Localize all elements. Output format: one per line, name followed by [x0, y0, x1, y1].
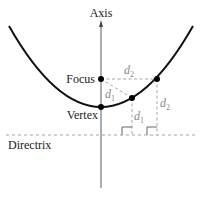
- vertex-label: Vertex: [67, 108, 98, 122]
- vertex-point: [98, 104, 104, 110]
- curve-point-p2: [154, 76, 160, 82]
- d1-vertical-label: d1: [134, 109, 144, 125]
- diagram-canvas: Axis Focus Vertex Directrix d2 d1 d1 d2: [0, 0, 200, 197]
- d2-vertical-label: d2: [160, 96, 170, 112]
- focus-label: Focus: [66, 72, 95, 86]
- axis-arrow-icon: [99, 20, 103, 27]
- directrix-label: Directrix: [8, 138, 51, 152]
- d2-horizontal-label: d2: [124, 63, 134, 79]
- focus-point: [98, 76, 104, 82]
- axis-label: Axis: [90, 6, 113, 20]
- parabola-diagram: Axis Focus Vertex Directrix d2 d1 d1 d2: [0, 0, 200, 197]
- right-angle-marker-p2: [147, 127, 157, 135]
- right-angle-marker-p1: [122, 127, 132, 135]
- d1-diagonal-label: d1: [105, 87, 115, 103]
- curve-point-p1: [129, 95, 135, 101]
